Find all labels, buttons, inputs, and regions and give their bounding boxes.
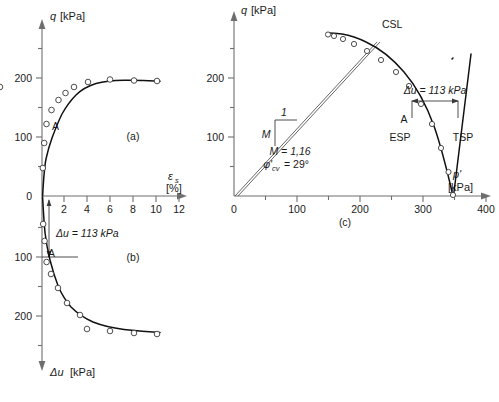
panel-b-data-point — [64, 300, 70, 306]
panel-a-ylabel-0: 0 — [26, 190, 32, 202]
figure-svg: 0 100 200 q [kPa] 2 4 6 8 10 12 ε s [%] — [0, 0, 499, 402]
panel-a-xlabel-2: 2 — [61, 203, 67, 215]
panel-a-xlabel-6: 6 — [107, 203, 113, 215]
panel-c-y-axis-symbol: q — [241, 4, 248, 16]
panel-c-xlabel-400: 400 — [477, 203, 495, 215]
panel-b-data-point — [107, 328, 113, 334]
panel-c-point-label-A: A — [400, 113, 407, 125]
panel-a-data-point — [56, 97, 62, 103]
panel-a-xlabel-8: 8 — [130, 203, 136, 215]
panel-c-xlabel-300: 300 — [414, 203, 432, 215]
panel-c-y-axis-arrow — [231, 11, 238, 21]
panel-c-param-phi-value: = 29° — [284, 158, 309, 170]
panel-b-data-point — [154, 331, 160, 337]
panel-c-data-point — [364, 48, 369, 53]
panel-c-data-point — [331, 33, 336, 38]
panel-a-y-axis-symbol: q — [50, 10, 57, 22]
panel-b-data-point — [42, 238, 48, 244]
panel-c-param-phi-group: φ' cv = 29° — [263, 158, 309, 173]
panel-c-param-m: M = 1,16 — [269, 145, 310, 157]
panel-a-xlabel-12: 12 — [173, 203, 185, 215]
panel-c-csl-line-upper — [235, 42, 377, 196]
panel-b-annotation-arrow-top — [47, 199, 52, 206]
panel-c-ylabel-100: 100 — [206, 131, 224, 143]
panel-b-y-axis-symbol: Δu — [49, 366, 64, 378]
panel-a-point-label-A: A — [52, 120, 59, 132]
panel-c-esp-curve — [327, 33, 453, 196]
panel-c-tsp-line-cap — [452, 58, 453, 59]
panel-a-y-axis-unit: [kPa] — [60, 10, 85, 22]
panel-a-label: (a) — [127, 130, 140, 142]
figure-container: 0 100 200 q [kPa] 2 4 6 8 10 12 ε s [%] — [0, 0, 499, 402]
panel-a-x-axis-symbol: ε — [168, 170, 173, 182]
panel-b-label: (b) — [127, 251, 140, 263]
panel-b-data-point — [40, 221, 46, 227]
panel-a-data-point — [49, 107, 55, 113]
panel-a-data-point — [154, 78, 160, 84]
panel-c-data-point — [340, 36, 345, 41]
panel-b-annotation-label: Δu = 113 kPa — [55, 227, 119, 239]
panel-c-data-point — [438, 145, 443, 150]
panel-b-ylabel-200: 200 — [14, 310, 32, 322]
panel-b-data-point — [55, 285, 61, 291]
panel-b-data-point — [77, 312, 83, 318]
panel-c-annotation-label: Δu = 113 kPa — [403, 84, 467, 96]
panel-c-slope-run-label: M — [262, 128, 271, 140]
panel-c-param-phi-subscript: cv — [272, 164, 281, 173]
panel-a-data-point — [41, 140, 47, 146]
panel-c-esp-label: ESP — [389, 131, 410, 143]
panel-a-data-point — [63, 90, 69, 96]
panel-c-data-point — [429, 121, 434, 126]
panel-a-data-point — [44, 121, 50, 127]
panel-a-data-point — [85, 79, 91, 85]
panel-c-ylabel-200: 200 — [206, 72, 224, 84]
panel-a-ylabel-200: 200 — [14, 72, 32, 84]
panel-c-tsp-label: TSP — [453, 131, 473, 143]
panel-a-ylabel-100: 100 — [14, 131, 32, 143]
panel-c-csl-label: CSL — [382, 18, 403, 30]
panel-c-data-point-origin — [450, 192, 455, 197]
panel-c-slope-rise-label: 1 — [281, 106, 287, 118]
panel-a-data-point — [40, 165, 46, 171]
panel-a-data-point — [71, 84, 77, 90]
panel-c-xlabel-200: 200 — [351, 203, 369, 215]
panel-c-y-axis-unit: [kPa] — [251, 4, 276, 16]
panel-a-xlabel-10: 10 — [150, 203, 162, 215]
panel-a-data-point — [0, 84, 3, 90]
panel-c-tsp-line — [454, 54, 472, 196]
panel-a: 0 100 200 q [kPa] 2 4 6 8 10 12 ε s [%] — [0, 10, 187, 215]
panel-b-curve — [43, 197, 160, 333]
panel-b-data-point — [84, 326, 90, 332]
panel-a-x-axis-unit: [%] — [166, 182, 182, 194]
panel-b-y-axis-unit: [kPa] — [70, 366, 95, 378]
panel-a-data-point — [107, 77, 113, 83]
panel-c-csl-line-lower — [238, 42, 380, 196]
panel-c-data-point — [325, 32, 330, 37]
panel-a-data-point — [131, 78, 137, 84]
panel-c-data-point — [351, 41, 356, 46]
panel-c-data-point — [378, 57, 383, 62]
panel-b-data-point — [131, 330, 137, 336]
panel-a-xlabel-4: 4 — [84, 203, 90, 215]
panel-c-xlabel-0: 0 — [231, 203, 237, 215]
panel-c-data-point — [393, 69, 398, 74]
panel-b-data-point — [48, 271, 54, 277]
panel-b: 100 200 Δu [kPa] Δu = 113 kPa A (b) — [14, 196, 160, 378]
panel-a-y-axis-arrow — [39, 19, 46, 29]
panel-c: 100 200 q [kPa] 0 100 200 300 400 p' [kP… — [206, 4, 494, 228]
panel-b-data-point — [44, 259, 50, 265]
panel-c-xlabel-100: 100 — [288, 203, 306, 215]
panel-b-ylabel-100: 100 — [14, 251, 32, 263]
panel-b-y-axis-arrow — [39, 361, 46, 371]
panel-c-data-point — [418, 101, 423, 106]
panel-c-data-point — [446, 169, 451, 174]
panel-c-label: (c) — [339, 216, 351, 228]
